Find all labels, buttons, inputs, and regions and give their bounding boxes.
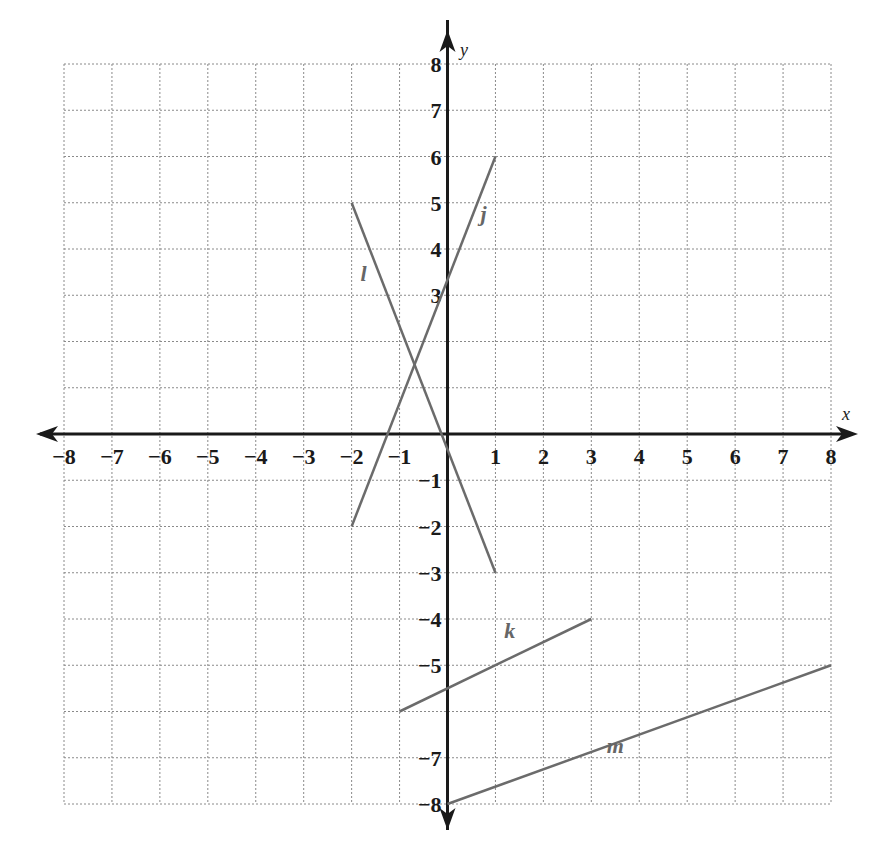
- x-tick-label: −5: [196, 444, 220, 469]
- x-tick-label: 6: [730, 444, 741, 469]
- x-tick-label: 3: [586, 444, 597, 469]
- y-tick-label: 4: [431, 237, 442, 262]
- x-tick-label: 2: [538, 444, 549, 469]
- y-tick-label: 5: [431, 191, 442, 216]
- line-label-m: m: [607, 733, 624, 758]
- x-axis-label: x: [841, 404, 850, 424]
- x-tick-label: −6: [148, 444, 172, 469]
- x-tick-label: −3: [292, 444, 316, 469]
- y-tick-label: 7: [431, 98, 442, 123]
- x-tick-label: 4: [634, 444, 645, 469]
- y-tick-label: −4: [418, 607, 442, 632]
- line-label-j: j: [477, 201, 487, 226]
- x-tick-label: 7: [778, 444, 789, 469]
- y-axis-label: y: [458, 40, 468, 60]
- y-tick-label: −8: [418, 792, 442, 817]
- x-tick-label: 1: [490, 444, 501, 469]
- x-tick-label: 8: [826, 444, 837, 469]
- y-tick-label: 3: [431, 283, 442, 308]
- coordinate-plane: xy −8−7−6−5−4−3−2−112345678876543−1−2−3−…: [0, 0, 887, 848]
- x-tick-label: −4: [244, 444, 268, 469]
- x-tick-label: −2: [340, 444, 364, 469]
- y-tick-label: 6: [431, 145, 442, 170]
- y-tick-label: −3: [418, 561, 442, 586]
- x-tick-label: −1: [388, 444, 412, 469]
- x-tick-label: −7: [100, 444, 124, 469]
- y-tick-label: −2: [418, 515, 442, 540]
- y-tick-label: 8: [431, 52, 442, 77]
- line-label-k: k: [504, 618, 515, 643]
- y-tick-label: −5: [418, 653, 442, 678]
- line-m: [448, 665, 832, 804]
- y-tick-label: −7: [418, 746, 442, 771]
- line-label-l: l: [361, 261, 368, 286]
- y-tick-label: −1: [418, 468, 442, 493]
- x-tick-label: 5: [682, 444, 693, 469]
- x-tick-label: −8: [52, 444, 76, 469]
